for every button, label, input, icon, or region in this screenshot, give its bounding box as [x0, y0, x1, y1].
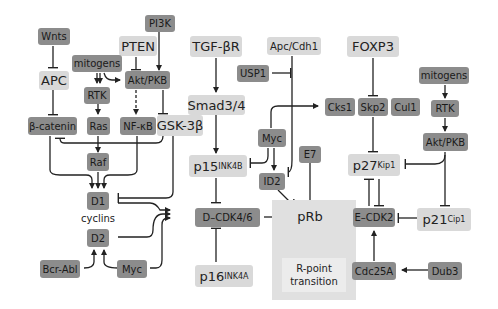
node-p15-ink4b: p15INK4B: [189, 155, 247, 177]
node-bcr-abl: Bcr-Abl: [40, 260, 80, 278]
node-p16-ink4a: p16INK4A: [195, 265, 253, 287]
node-e7: E7: [299, 146, 321, 163]
node-prb: pRb: [293, 206, 327, 227]
node-e-cdk2: E–CDK2: [353, 208, 395, 227]
node-d-cdk46: D–CDK4/6: [195, 208, 260, 227]
p15-superscript: INK4B: [218, 162, 242, 171]
node-nfkb: NF-κB: [120, 117, 156, 135]
node-cks1: Cks1: [325, 98, 355, 116]
p21-superscript: Cip1: [447, 215, 465, 224]
node-raf: Raf: [87, 153, 109, 171]
node-myc-mid: Myc: [258, 129, 286, 147]
node-p27-kip1: p27Kip1: [348, 154, 400, 176]
node-cyclin-d2: D2: [87, 229, 109, 247]
node-gsk3b: GSK-3β: [157, 115, 203, 136]
p21-label: p21: [423, 212, 448, 227]
node-apc-cdh1: Apc/Cdh1: [267, 37, 321, 55]
node-p21-cip1: p21Cip1: [417, 208, 471, 231]
node-rtk-left: RTK: [84, 87, 110, 104]
p27-superscript: Kip1: [378, 161, 396, 170]
node-cdc25a: Cdc25A: [352, 262, 396, 280]
node-akt-left: Akt/PKB: [125, 71, 170, 89]
node-skp2: Skp2: [358, 98, 388, 116]
node-ras: Ras: [87, 117, 110, 135]
node-smad34: Smad3/4: [188, 95, 245, 115]
node-tgf-beta-r: TGF-βR: [190, 36, 242, 57]
node-mitogens-left: mitogens: [72, 55, 122, 72]
node-pten: PTEN: [119, 36, 157, 56]
node-usp1: USP1: [237, 65, 269, 82]
node-beta-catenin: β-catenin: [28, 117, 77, 135]
p15-label: p15: [194, 159, 219, 174]
node-myc-bottom: Myc: [117, 260, 147, 278]
pathway-diagram: Wnts PI3K PTEN APC mitogens Akt/PKB RTK …: [0, 0, 498, 309]
node-dub3: Dub3: [428, 262, 462, 280]
p16-superscript: INK4A: [224, 272, 248, 281]
node-cul1: Cul1: [391, 98, 420, 116]
rpoint-label-line1: R-point: [290, 262, 338, 275]
node-rtk-right: RTK: [431, 100, 459, 117]
p27-label: p27: [353, 158, 378, 173]
node-wnts: Wnts: [38, 28, 70, 45]
node-apc: APC: [39, 71, 69, 90]
node-mitogens-right: mitogens: [419, 67, 469, 84]
node-akt-right: Akt/PKB: [423, 133, 468, 151]
node-cyclin-d1: D1: [87, 192, 109, 210]
node-foxp3: FOXP3: [347, 36, 399, 57]
rpoint-label-line2: transition: [290, 275, 338, 288]
p16-label: p16: [200, 269, 225, 284]
label-cyclins: cyclins: [82, 211, 114, 225]
node-rpoint-transition: R-point transition: [282, 258, 346, 292]
node-pi3k: PI3K: [145, 15, 175, 32]
node-id2: ID2: [259, 173, 285, 190]
